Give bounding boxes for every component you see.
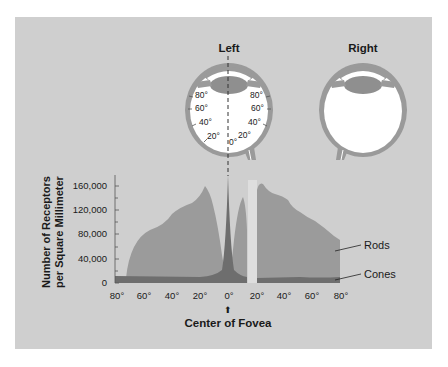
left-eye-angle-20-left: 20° [207, 131, 220, 141]
x-tick-80-left: 80° [110, 290, 125, 301]
left-eye-angle-80-left: 80° [195, 90, 208, 100]
left-eye-diagram: 80° 60° 40° 20° 80° 60° 40° 20° 0° Left [185, 42, 273, 160]
blind-spot-gap [248, 180, 257, 283]
left-eye-angle-80-right: 80° [250, 90, 263, 100]
rods-area-right [257, 184, 340, 283]
x-tick-60-left: 60° [137, 290, 152, 301]
legend-cones: Cones [364, 268, 396, 280]
left-eye-label: Left [218, 42, 239, 54]
y-tick-40000: 40,000 [78, 253, 107, 264]
x-tick-40-left: 40° [165, 290, 180, 301]
figure-svg: 80° 60° 40° 20° 80° 60° 40° 20° 0° Left … [0, 0, 448, 367]
left-eye-angle-40-left: 40° [199, 117, 212, 127]
right-eye-diagram: Right [319, 42, 407, 160]
y-tick-0: 0 [102, 277, 107, 288]
y-tick-120000: 120,000 [73, 204, 107, 215]
y-tick-160000: 160,000 [73, 180, 107, 191]
x-tick-60-right: 60° [305, 290, 320, 301]
x-tick-0: 0° [224, 290, 233, 301]
y-tick-80000: 80,000 [78, 228, 107, 239]
x-tick-40-right: 40° [277, 290, 292, 301]
x-tick-80-right: 80° [334, 290, 349, 301]
left-eye-angle-40-right: 40° [248, 117, 261, 127]
left-eye-angle-0: 0° [229, 137, 237, 147]
right-eye-label: Right [348, 42, 378, 54]
x-tick-20-right: 20° [250, 290, 265, 301]
x-tick-20-left: 20° [193, 290, 208, 301]
y-axis-title-line2: per Square Millimeter [53, 175, 65, 288]
left-eye-angle-60-right: 60° [251, 103, 264, 113]
y-axis-title-line1: Number of Receptors [40, 176, 52, 288]
x-axis-caption: Center of Fovea [185, 317, 273, 329]
left-eye-angle-20-right: 20° [238, 130, 251, 140]
legend-rods: Rods [364, 239, 390, 251]
fovea-arrow-icon: ⬆ [224, 305, 232, 315]
left-eye-angle-60-left: 60° [195, 103, 208, 113]
receptor-density-chart: 0 40,000 80,000 120,000 160,000 Number o… [40, 175, 396, 329]
